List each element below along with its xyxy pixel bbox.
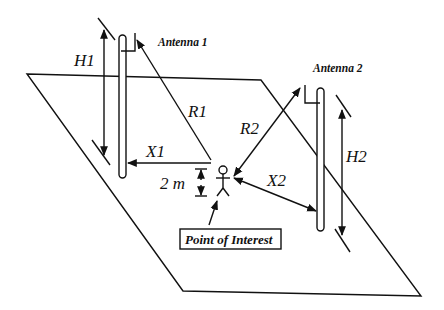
x2-label: X2 <box>266 171 286 190</box>
h1-dimension <box>92 18 115 165</box>
h2-label: H2 <box>345 147 367 166</box>
antenna-1-label: Antenna 1 <box>157 36 208 48</box>
height-2m-label: 2 m <box>160 174 185 193</box>
person-figure-icon <box>216 166 230 196</box>
point-of-interest-box: Point of Interest <box>180 229 281 249</box>
antenna-2-pole <box>317 88 324 231</box>
x1-label: X1 <box>145 142 165 161</box>
h1-label: H1 <box>73 51 95 70</box>
r1-label: R1 <box>187 102 207 121</box>
poi-pointer-arrow <box>209 201 217 225</box>
antenna-geometry-diagram: Antenna 1 Antenna 2 H1 H2 R1 R2 X1 X2 2 … <box>0 0 444 310</box>
antenna-1 <box>119 33 135 178</box>
ground-plane <box>27 74 421 296</box>
point-of-interest-label: Point of Interest <box>185 232 273 247</box>
antenna-2-label: Antenna 2 <box>312 62 363 74</box>
h2-dimension <box>335 95 351 252</box>
height-2m-dimension <box>195 169 207 196</box>
antenna-1-pole <box>119 35 126 178</box>
r2-label: R2 <box>239 119 259 138</box>
antenna-2 <box>305 85 324 231</box>
